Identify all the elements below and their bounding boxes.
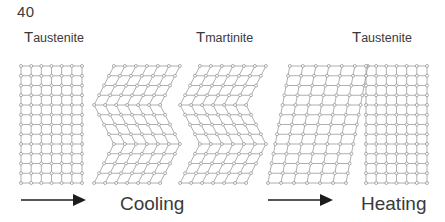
temperature-symbol: T	[24, 28, 33, 45]
temperature-label-austenite-left: Taustenite	[24, 29, 84, 46]
shape-memory-alloy-phase-diagram: 40 Taustenite Tmartinite Taustenite Cool…	[0, 0, 445, 222]
austenite-cubic-lattice-right	[365, 65, 429, 185]
temperature-symbol: T	[352, 28, 361, 45]
temperature-subscript: austenite	[361, 31, 412, 45]
temperature-label-austenite-right: Taustenite	[352, 29, 412, 46]
heating-arrow	[268, 194, 333, 206]
temperature-subscript: austenite	[33, 31, 84, 45]
twinned-martensite-lattice-1	[93, 65, 182, 185]
detwinned-martensite-lattice	[267, 65, 370, 185]
twinned-martensite-lattice-2	[179, 65, 268, 185]
austenite-cubic-lattice-left	[20, 65, 84, 185]
heating-label: Heating	[361, 192, 427, 215]
cooling-arrow	[21, 194, 86, 206]
temperature-label-martinite: Tmartinite	[196, 29, 253, 46]
temperature-symbol: T	[196, 28, 205, 45]
temperature-subscript: martinite	[205, 31, 253, 45]
cooling-label: Cooling	[120, 192, 184, 215]
